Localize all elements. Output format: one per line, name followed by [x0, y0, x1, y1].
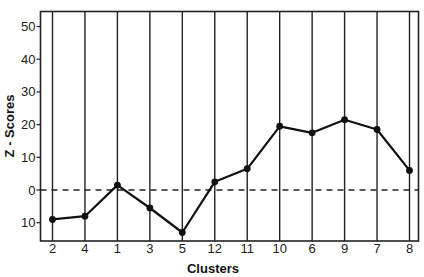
category-gridlines	[53, 12, 410, 242]
data-point	[49, 216, 56, 223]
x-tick-label: 6	[309, 241, 316, 256]
series-line	[53, 120, 410, 233]
data-point	[406, 167, 413, 174]
data-point	[114, 182, 121, 189]
line-chart: 5040302010010 241351211106978 Clusters Z…	[0, 0, 424, 277]
x-axis-tick-labels: 241351211106978	[49, 241, 413, 256]
x-tick-label: 7	[373, 241, 380, 256]
x-axis-title: Clusters	[187, 261, 239, 276]
x-tick-label: 8	[406, 241, 413, 256]
plot-border	[41, 12, 419, 242]
y-tick-label: 20	[21, 117, 35, 132]
data-point	[309, 129, 316, 136]
plot-area	[41, 12, 419, 242]
y-axis: 5040302010010	[21, 19, 40, 230]
y-tick-label: 0	[28, 183, 35, 198]
x-tick-label: 1	[114, 241, 121, 256]
data-point	[211, 178, 218, 185]
x-tick-label: 10	[272, 241, 286, 256]
x-tick-label: 3	[146, 241, 153, 256]
x-tick-label: 4	[81, 241, 88, 256]
y-tick-label: 30	[21, 84, 35, 99]
data-point	[244, 165, 251, 172]
x-tick-label: 11	[240, 241, 254, 256]
x-tick-label: 9	[341, 241, 348, 256]
data-point	[276, 123, 283, 130]
y-tick-label: 50	[21, 19, 35, 34]
y-tick-label: 10	[21, 150, 35, 165]
y-axis-title: Z - Scores	[2, 95, 17, 158]
data-point	[82, 213, 89, 220]
data-point	[146, 205, 153, 212]
data-point	[374, 126, 381, 133]
data-point	[179, 229, 186, 236]
data-point	[341, 116, 348, 123]
x-tick-label: 12	[208, 241, 222, 256]
y-tick-label: 10	[21, 215, 35, 230]
x-tick-label: 2	[49, 241, 56, 256]
y-tick-label: 40	[21, 52, 35, 67]
x-tick-label: 5	[179, 241, 186, 256]
